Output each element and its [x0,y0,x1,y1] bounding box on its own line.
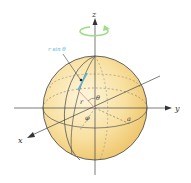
x-axis-label: x [18,136,23,145]
z-arrowhead [93,18,98,25]
r-sin-theta-label: r sin θ [48,46,66,52]
y-axis-label: y [174,104,180,113]
theta-label: θ [96,94,100,102]
y-arrowhead [165,106,172,111]
radius-label: a [127,115,131,123]
x-arrowhead [27,132,35,138]
r-sin-theta-point [80,79,83,82]
phi-label: φ [85,114,90,122]
spherical-coordinates-diagram: z y x a φ r θ r sin θ [0,0,191,183]
z-axis-label: z [91,10,97,19]
